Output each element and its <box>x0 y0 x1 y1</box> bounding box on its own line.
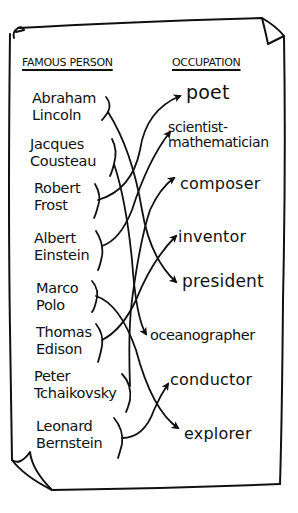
header-famous-person: FAMOUS PERSON <box>22 56 113 69</box>
person-marco-polo: Marco Polo <box>36 280 78 314</box>
header-occupation: OCCUPATION <box>172 56 241 69</box>
occupation-scientist-mathematician: scientist- mathematician <box>168 120 269 150</box>
occupation-oceanographer: oceanographer <box>150 328 255 342</box>
occupation-president: president <box>182 273 264 289</box>
name-brackets <box>92 97 130 458</box>
occupation-composer: composer <box>180 176 260 192</box>
matching-worksheet: FAMOUS PERSON OCCUPATION Abraham Lincoln… <box>0 0 298 513</box>
occupation-inventor: inventor <box>178 229 246 245</box>
person-peter-tchaikovsky: Peter Tchaikovsky <box>34 368 117 402</box>
person-thomas-edison: Thomas Edison <box>36 324 92 358</box>
occupation-conductor: conductor <box>170 372 252 388</box>
person-jacques-cousteau: Jacques Cousteau <box>30 136 96 170</box>
person-robert-frost: Robert Frost <box>34 180 80 214</box>
person-leonard-bernstein: Leonard Bernstein <box>36 418 102 452</box>
occupation-poet: poet <box>186 84 230 100</box>
arrow-einstein-scientist <box>102 132 170 246</box>
person-albert-einstein: Albert Einstein <box>34 230 89 264</box>
person-abraham-lincoln: Abraham Lincoln <box>32 90 96 124</box>
arrow-polo-explorer <box>96 296 178 428</box>
arrow-tchaikovsky-composer <box>129 178 174 386</box>
occupation-explorer: explorer <box>184 426 252 442</box>
